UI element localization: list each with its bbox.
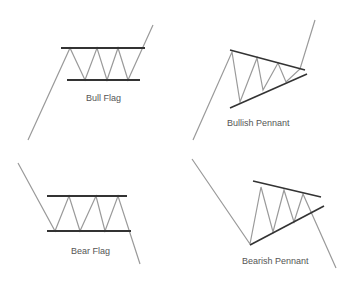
bull-flag-pattern bbox=[28, 25, 153, 140]
bullish-pennant-label: Bullish Pennant bbox=[227, 118, 290, 128]
patterns-diagram bbox=[0, 0, 345, 286]
bull-flag-label: Bull Flag bbox=[86, 93, 121, 103]
bearish-pennant-label: Bearish Pennant bbox=[242, 256, 309, 266]
bearish-pennant-pattern bbox=[192, 159, 336, 268]
bear-flag-label: Bear Flag bbox=[71, 246, 110, 256]
